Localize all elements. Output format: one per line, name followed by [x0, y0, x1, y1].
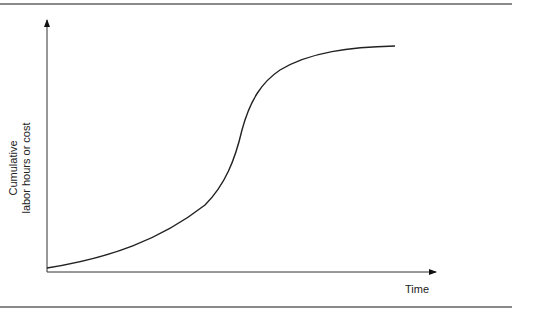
y-axis-label: Cumulative labor hours or cost — [7, 122, 33, 213]
y-axis-label-line-1: Cumulative — [7, 122, 20, 213]
s-curve-line — [47, 46, 395, 268]
s-curve-chart — [0, 0, 538, 316]
y-axis-label-line-2: labor hours or cost — [20, 122, 33, 213]
x-axis-label: Time — [405, 283, 429, 295]
bottom-rule — [0, 306, 512, 308]
